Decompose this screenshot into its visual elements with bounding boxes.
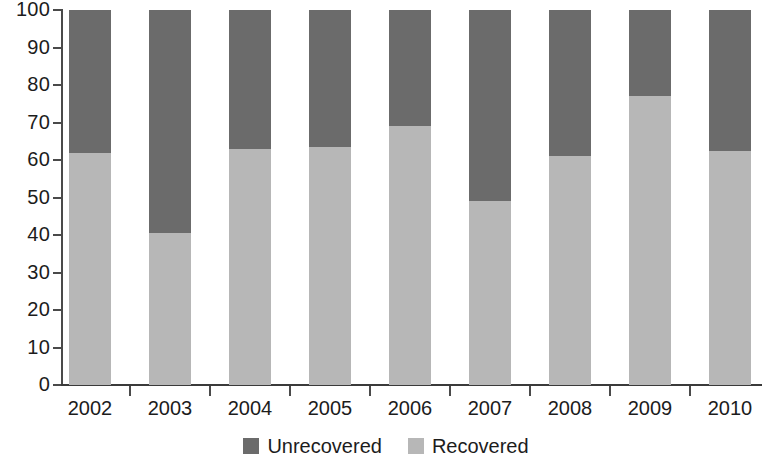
bar-segment-recovered [629,96,671,385]
x-axis-label-2005: 2005 [285,396,375,420]
x-axis-label-2010: 2010 [685,396,772,420]
bar-segment-recovered [709,151,751,385]
y-axis-tick-label: 10 [4,337,50,357]
x-axis-label-2006: 2006 [365,396,455,420]
x-axis-tick-mark [209,386,211,396]
bar-segment-unrecovered [389,10,431,126]
y-axis-tick-label: 40 [4,224,50,244]
bar-segment-recovered [149,233,191,385]
chart-legend: UnrecoveredRecovered [0,436,772,456]
legend-item-recovered[interactable]: Recovered [408,436,529,456]
bar-2010 [709,10,751,385]
x-axis-tick-mark [449,386,451,396]
bar-segment-recovered [549,156,591,385]
legend-label: Recovered [432,436,529,456]
plot-area [62,10,762,385]
bar-segment-recovered [229,149,271,385]
bar-segment-unrecovered [69,10,111,153]
legend-label: Unrecovered [267,436,382,456]
x-axis-tick-mark [289,386,291,396]
bar-segment-recovered [309,147,351,385]
x-axis-label-2003: 2003 [125,396,215,420]
bar-2003 [149,10,191,385]
bar-2004 [229,10,271,385]
stacked-bar-chart: 0102030405060708090100 20022003200420052… [0,0,772,463]
legend-swatch-icon [243,438,259,454]
bar-segment-recovered [69,153,111,386]
y-axis-tick-label: 100 [4,0,50,19]
x-axis-tick-mark [689,386,691,396]
legend-item-unrecovered[interactable]: Unrecovered [243,436,382,456]
bar-2008 [549,10,591,385]
x-axis-label-2009: 2009 [605,396,695,420]
y-axis-tick-label: 60 [4,149,50,169]
bar-2007 [469,10,511,385]
x-axis-label-2002: 2002 [45,396,135,420]
bar-segment-recovered [389,126,431,385]
bar-segment-unrecovered [629,10,671,96]
bar-2009 [629,10,671,385]
x-axis-tick-mark [529,386,531,396]
bar-segment-unrecovered [309,10,351,147]
y-axis-labels: 0102030405060708090100 [0,0,50,395]
bar-2005 [309,10,351,385]
x-axis-label-2004: 2004 [205,396,295,420]
x-axis-tick-mark [609,386,611,396]
bar-segment-unrecovered [469,10,511,201]
bar-2006 [389,10,431,385]
y-axis-tick-label: 0 [4,374,50,394]
y-axis-tick-label: 30 [4,262,50,282]
bar-segment-unrecovered [149,10,191,233]
y-axis-tick-label: 20 [4,299,50,319]
bar-segment-unrecovered [709,10,751,151]
y-axis-tick-label: 70 [4,112,50,132]
bar-segment-unrecovered [549,10,591,156]
y-axis-tick-label: 80 [4,74,50,94]
legend-swatch-icon [408,438,424,454]
x-axis-tick-mark [369,386,371,396]
x-axis-label-2008: 2008 [525,396,615,420]
y-axis-tick-label: 90 [4,37,50,57]
bar-segment-recovered [469,201,511,385]
bar-2002 [69,10,111,385]
y-axis-tick-label: 50 [4,187,50,207]
bar-segment-unrecovered [229,10,271,149]
x-axis-tick-mark [129,386,131,396]
x-axis-label-2007: 2007 [445,396,535,420]
